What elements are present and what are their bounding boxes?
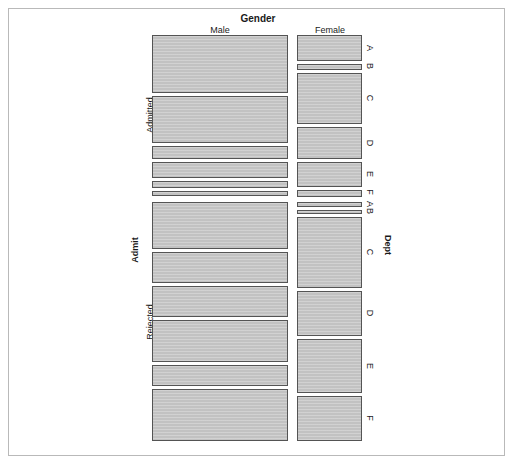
tile-female-admitted-dept-e	[297, 162, 362, 187]
dept-label-rejected-e: E	[365, 363, 374, 369]
tile-female-rejected-dept-a	[297, 202, 362, 207]
tile-female-rejected-dept-f	[297, 396, 362, 441]
tile-male-admitted-dept-d	[152, 162, 288, 178]
tile-male-admitted-dept-e	[152, 181, 288, 188]
tile-male-admitted-dept-c	[152, 146, 288, 159]
dept-label-admitted-e: E	[365, 171, 374, 177]
tile-female-rejected-dept-b	[297, 210, 362, 214]
tile-female-admitted-dept-a	[297, 35, 362, 61]
tile-male-admitted-dept-b	[152, 96, 288, 143]
tile-male-rejected-dept-f	[152, 389, 288, 441]
gender-level-female: Female	[315, 26, 345, 35]
mosaic-plot: Gender Male Female Admit Admitted Reject…	[0, 0, 515, 464]
tile-male-rejected-dept-a	[152, 202, 288, 249]
tile-male-admitted-dept-f	[152, 191, 288, 196]
tile-female-admitted-dept-d	[297, 127, 362, 159]
dept-label-rejected-c: C	[365, 249, 374, 256]
admit-axis-title: Admit	[131, 237, 140, 263]
tile-male-rejected-dept-e	[152, 365, 288, 386]
tile-female-admitted-dept-c	[297, 73, 362, 124]
dept-label-admitted-a: A	[365, 45, 374, 51]
dept-label-rejected-b: B	[365, 208, 374, 214]
dept-label-rejected-a: A	[365, 201, 374, 207]
gender-axis-title: Gender	[240, 14, 275, 24]
tile-male-rejected-dept-d	[152, 320, 288, 362]
dept-label-admitted-f: F	[365, 189, 374, 195]
dept-label-admitted-c: C	[365, 95, 374, 102]
dept-axis-title: Dept	[383, 235, 392, 255]
tile-female-rejected-dept-e	[297, 339, 362, 393]
tile-male-rejected-dept-b	[152, 252, 288, 283]
dept-label-rejected-f: F	[365, 415, 374, 421]
gender-level-male: Male	[210, 26, 230, 35]
dept-label-rejected-d: D	[365, 310, 374, 317]
tile-male-admitted-dept-a	[152, 35, 288, 93]
tile-female-rejected-dept-d	[297, 291, 362, 336]
tile-female-admitted-dept-b	[297, 64, 362, 70]
tile-female-rejected-dept-c	[297, 217, 362, 288]
tile-female-admitted-dept-f	[297, 190, 362, 197]
dept-label-admitted-b: B	[365, 63, 374, 69]
tile-male-rejected-dept-c	[152, 286, 288, 317]
dept-label-admitted-d: D	[365, 140, 374, 147]
